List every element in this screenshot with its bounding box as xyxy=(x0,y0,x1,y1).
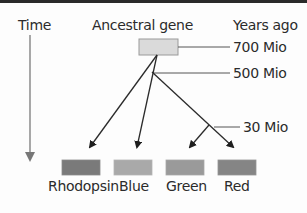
time-label: Time xyxy=(18,17,51,33)
blue-box xyxy=(114,160,152,175)
blue-label: Blue xyxy=(119,178,149,194)
ancestral-gene-label: Ancestral gene xyxy=(92,17,193,33)
branch-green xyxy=(190,125,209,147)
tree-branches xyxy=(90,55,233,147)
green-box xyxy=(166,160,204,175)
rhodopsin-label: Rhodopsin xyxy=(48,178,119,194)
years-ago-header: Years ago xyxy=(233,17,298,33)
mark-500-label: 500 Mio xyxy=(233,65,287,81)
red-box xyxy=(218,160,256,175)
mark-700-label: 700 Mio xyxy=(233,39,287,55)
mark-30-label: 30 Mio xyxy=(243,119,288,135)
red-label: Red xyxy=(224,178,250,194)
branch-red xyxy=(152,72,233,147)
ancestral-gene-box xyxy=(139,39,178,55)
green-label: Green xyxy=(166,178,207,194)
rhodopsin-box xyxy=(62,160,100,175)
diagram-canvas: Time Ancestral gene Years ago 700 Mio 50… xyxy=(0,0,307,213)
